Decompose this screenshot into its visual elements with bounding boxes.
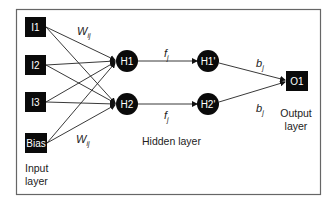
activated-node-h2-prime: H2' [197,93,219,115]
input-node-i3: I3 [25,92,46,112]
weight-label-wij-top: Wij [77,25,91,40]
activated-node-h1-prime: H1' [197,50,219,72]
weight-label-wij-bottom: Wij [76,133,90,148]
output-weight-label-bj-bottom: bj [256,102,264,117]
svg-text:I3: I3 [31,97,40,108]
input-node-bias: Bias [25,133,47,153]
activation-label-fj-top: fj [164,47,169,62]
svg-text:H2': H2' [201,99,216,110]
hidden-node-h1: H1 [116,50,138,72]
diagram-frame [17,10,321,195]
neural-network-diagram: I1 I2 I3 Bias H1 H2 H1' H2' O1 Wij Wij f… [0,0,334,210]
svg-text:H1: H1 [121,56,134,67]
svg-text:I1: I1 [31,22,40,33]
hidden-node-h2: H2 [116,93,138,115]
input-layer-label-line2: layer [25,175,48,187]
svg-text:O1: O1 [290,76,304,87]
hidden-to-output-edges [219,63,285,102]
output-layer-label-line2: layer [285,120,308,132]
svg-text:Bias: Bias [26,138,45,149]
svg-text:I2: I2 [31,60,40,71]
hidden-layer-label: Hidden layer [142,135,201,147]
activation-edges [138,61,197,104]
output-node-o1: O1 [286,71,308,91]
input-node-i1: I1 [25,17,46,37]
output-layer-label-line1: Output [280,107,312,119]
svg-text:H2: H2 [121,99,134,110]
input-to-hidden-edges [46,27,115,143]
output-weight-label-bj-top: bj [256,57,264,72]
input-layer-label-line1: Input [25,162,48,174]
input-node-i2: I2 [25,55,46,75]
activation-label-fj-bottom: fj [164,109,169,124]
svg-text:H1': H1' [201,56,216,67]
